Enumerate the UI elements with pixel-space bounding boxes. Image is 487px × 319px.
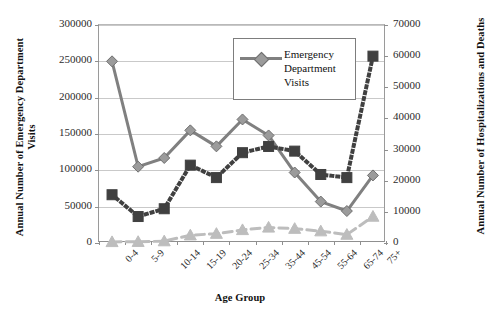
x-axis-tick-label: 0-4	[123, 247, 140, 264]
x-axis-tick-label: 55-64	[335, 247, 359, 271]
chart-legend: Emergency Department Visits	[233, 38, 356, 100]
x-axis-title: Age Group	[150, 292, 330, 304]
data-point-marker	[368, 51, 378, 61]
x-axis-tick-label: 5-9	[149, 247, 166, 264]
y-axis-left-tick-label: 0	[30, 235, 92, 247]
data-point-marker	[133, 161, 144, 172]
y-axis-right-tick-label: 60000	[393, 48, 455, 60]
data-point-marker	[316, 169, 326, 179]
data-point-marker	[107, 190, 117, 200]
x-axis-tick-label: 65-74	[361, 247, 385, 271]
legend-entry-emergency-department-visits: Emergency Department Visits	[240, 48, 356, 89]
data-point-marker	[238, 148, 248, 158]
x-axis-tickmark	[386, 241, 387, 245]
data-point-marker	[185, 160, 195, 170]
y-axis-right-tick-label: 30000	[393, 142, 455, 154]
x-axis-tick-label: 10-14	[178, 247, 202, 271]
data-point-marker	[211, 173, 221, 183]
x-axis-tick-label: 15-19	[204, 247, 228, 271]
y-axis-left-tick-label: 150000	[30, 126, 92, 138]
y-axis-left-tick-label: 200000	[30, 90, 92, 102]
data-point-marker	[133, 212, 143, 222]
y-axis-right-tick-label: 40000	[393, 110, 455, 122]
y-axis-right-tick-label: 20000	[393, 173, 455, 185]
y-axis-left-tick-label: 50000	[30, 199, 92, 211]
y-axis-left-tick-label: 300000	[30, 17, 92, 29]
x-axis-tick-label: 35-44	[282, 247, 306, 271]
x-axis-tick-label: 45-54	[309, 247, 333, 271]
y-axis-right-title: Annual Number of Hospitalizations and De…	[475, 11, 487, 241]
x-axis-tick-label: 25-34	[256, 247, 280, 271]
y-axis-right-tick-label: 70000	[393, 17, 455, 29]
y-axis-right-tick-label: 10000	[393, 204, 455, 216]
data-point-marker	[107, 56, 118, 67]
y-axis-right-tick-label: 50000	[393, 79, 455, 91]
data-point-marker	[367, 211, 379, 222]
data-point-marker	[159, 204, 169, 214]
legend-entry-label: Emergency Department Visits	[284, 48, 356, 89]
y-axis-left-tick-label: 100000	[30, 162, 92, 174]
legend-line-diamond-icon	[240, 51, 282, 65]
x-axis-tick-label: 20-24	[230, 247, 254, 271]
data-point-marker	[342, 173, 352, 183]
y-axis-right-tick-label: 0	[393, 235, 455, 247]
x-axis-tick-label: 75+	[385, 247, 404, 266]
data-point-marker	[290, 146, 300, 156]
data-point-marker	[264, 141, 274, 151]
y-axis-left-tick-label: 250000	[30, 53, 92, 65]
